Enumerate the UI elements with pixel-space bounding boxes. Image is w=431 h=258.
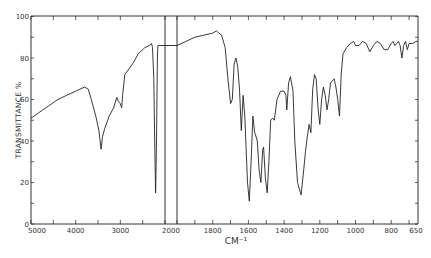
x-tick-labels: 5000400030002000180016001400120010008006… [28, 227, 423, 235]
y-tick-label: 20 [20, 179, 29, 187]
axis-ticks [31, 16, 418, 224]
x-tick-label: 1000 [347, 227, 365, 235]
x-axis-title: CM⁻¹ [225, 236, 248, 246]
x-tick-label: 1800 [204, 227, 222, 235]
x-tick-label: 1400 [275, 227, 293, 235]
x-tick-label: 5000 [28, 227, 46, 235]
y-axis-title: TRANSMITTANCE % [14, 82, 23, 160]
spectrum-line [31, 31, 418, 201]
y-tick-label: 80 [20, 55, 29, 63]
x-tick-label: 1200 [311, 227, 329, 235]
x-tick-label: 3000 [111, 227, 129, 235]
ir-spectrum-chart: 020406080100 500040003000200018001600140… [0, 0, 431, 258]
x-tick-label: 650 [409, 227, 422, 235]
x-tick-label: 800 [385, 227, 398, 235]
x-tick-label: 1600 [239, 227, 257, 235]
x-tick-label: 4000 [67, 227, 85, 235]
x-tick-label: 2000 [162, 227, 180, 235]
y-tick-label: 100 [16, 13, 29, 21]
plot-frame [31, 16, 418, 224]
